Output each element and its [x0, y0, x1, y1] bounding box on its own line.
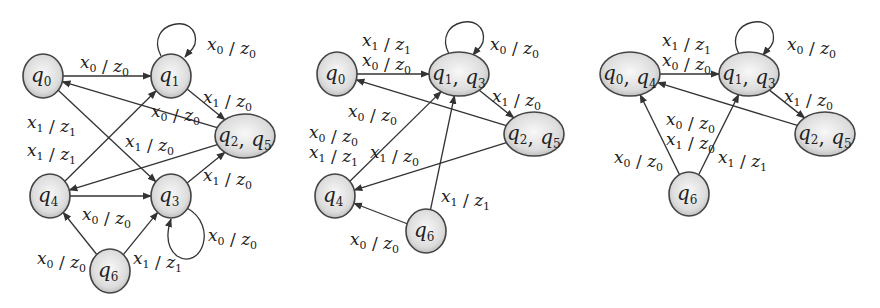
state-q2q5: q2, q5	[504, 112, 564, 156]
transition-label: x0 / z0	[787, 34, 836, 61]
transition-label: x1 / z1	[27, 112, 76, 139]
transition-label: x1 / z0	[784, 86, 833, 113]
automaton-2: x1 / z1x0 / z0x0 / z0x1 / z0x0 / z0x0 / …	[309, 22, 564, 256]
transition-label: x0 / z0	[80, 52, 129, 79]
transition-q6-to-q4: x0 / z0	[350, 203, 407, 256]
transition-label: x1 / z0	[125, 131, 174, 158]
automaton-1: x0 / z0x0 / z0x1 / z0x0 / z0x1 / z1x1 / …	[23, 24, 275, 293]
transition-label: x1 / z0	[203, 165, 252, 192]
transition-label: x1 / z1	[309, 142, 358, 169]
transition-q2q5-to-q0q4: x0 / z0x1 / z0	[658, 83, 798, 156]
transition-label: x0 / z0	[348, 101, 397, 128]
transition-label: x0 / z0	[490, 34, 539, 61]
transition-label: x0 / z0	[37, 248, 86, 275]
transition-arrow	[354, 203, 407, 223]
state-q4: q4	[315, 174, 355, 218]
transition-q0-to-q1: x0 / z0	[63, 52, 151, 79]
transition-label: x0 / z0	[151, 101, 200, 128]
transition-label: x0 / z0	[350, 229, 399, 256]
transition-label: x1 / z0	[370, 142, 419, 169]
transition-label: x0 / z0	[82, 204, 131, 231]
transition-q2q5-to-q4: x1 / z0	[354, 142, 506, 190]
transition-q2q5-to-q0: x0 / z0	[62, 82, 217, 128]
self-loop-arrow	[158, 24, 196, 57]
transition-q4-to-q3: x0 / z0	[70, 196, 151, 231]
self-loop-arrow	[736, 22, 774, 55]
state-q2q5: q2, q5	[795, 112, 855, 156]
automaton-3: x1 / z1x0 / z0x0 / z0x1 / z0x0 / z0x1 / …	[600, 22, 855, 216]
transition-label: x0 / z0	[662, 50, 711, 77]
state-q0q4: q0, q4	[600, 52, 660, 96]
transition-label: x0 / z0	[208, 225, 257, 252]
transition-q6-to-q3: x1 / z1	[123, 212, 182, 275]
state-q6: q6	[90, 249, 130, 293]
state-q6: q6	[406, 209, 446, 253]
state-q1q3: q1, q3	[429, 52, 489, 96]
state-q6: q6	[669, 172, 709, 216]
transition-label: x1 / z1	[441, 186, 490, 213]
transition-label: x1 / z0	[492, 86, 541, 113]
transition-label: x1 / z1	[718, 147, 767, 174]
state-q0: q0	[23, 54, 63, 98]
transition-q0q4-to-q1q3: x1 / z1x0 / z0	[660, 30, 719, 77]
self-loop-arrow	[446, 22, 484, 55]
transition-label: x1 / z0	[666, 129, 715, 156]
state-q2q5: q2, q5	[215, 114, 275, 158]
transition-label: x1 / z0	[203, 87, 252, 114]
transition-label: x1 / z1	[27, 140, 76, 167]
transition-q0-to-q1q3: x1 / z1x0 / z0	[357, 30, 429, 77]
transition-label: x0 / z0	[614, 147, 663, 174]
state-q1: q1	[151, 54, 191, 98]
transition-q6-to-q1q3: x1 / z1	[431, 96, 491, 213]
transition-q2q5-to-q4: x1 / z0	[69, 131, 217, 190]
state-q3: q3	[151, 174, 191, 218]
state-q4: q4	[30, 174, 70, 218]
state-q0: q0	[317, 52, 357, 96]
transition-label: x0 / z0	[207, 34, 256, 61]
diagrams-group: x0 / z0x0 / z0x1 / z0x0 / z0x1 / z1x1 / …	[23, 22, 855, 293]
state-q1q3: q1, q3	[719, 52, 779, 96]
transition-label: x1 / z1	[133, 248, 182, 275]
transition-label: x0 / z0	[362, 50, 411, 77]
automata-figure: x0 / z0x0 / z0x1 / z0x0 / z0x1 / z1x1 / …	[0, 0, 880, 308]
